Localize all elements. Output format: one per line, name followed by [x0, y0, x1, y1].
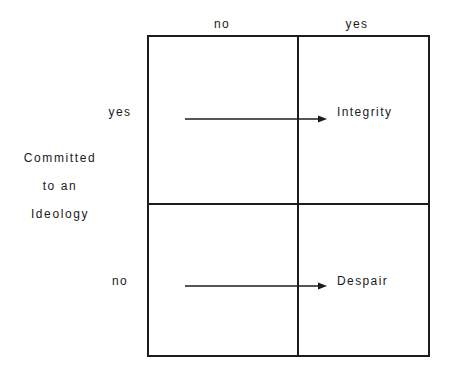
axis-title-committed-to-an-ideology: Committed to an Ideology — [0, 144, 120, 228]
arrow-to-integrity — [185, 113, 327, 125]
cell-label-integrity: Integrity — [337, 105, 392, 119]
matrix-horizontal-divider — [147, 203, 430, 205]
axis-title-line-1: Committed — [0, 144, 120, 172]
diagram-canvas: no yes Committed to an Ideology yes no I… — [0, 0, 454, 375]
arrow-to-despair — [185, 280, 327, 292]
cell-label-despair: Despair — [337, 274, 388, 288]
row-label-yes: yes — [96, 105, 144, 119]
axis-title-line-2: to an — [0, 172, 120, 200]
column-header-no: no — [192, 17, 252, 31]
matrix-vertical-divider — [297, 35, 299, 357]
column-header-yes: yes — [327, 17, 387, 31]
axis-title-line-3: Ideology — [0, 200, 120, 228]
matrix-outer-box — [147, 35, 430, 357]
row-label-no: no — [96, 274, 144, 288]
